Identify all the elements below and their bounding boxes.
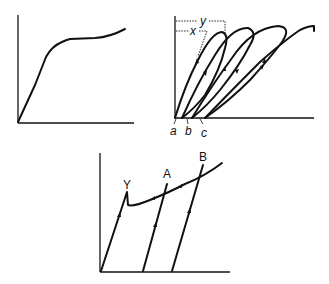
figure-canvas: y x a b c Y A B (0, 0, 329, 284)
diagram-monotonic (18, 15, 134, 123)
label-y: y (199, 14, 207, 28)
tick-c (200, 119, 203, 124)
stress-strain-curve (18, 29, 125, 122)
label-x: x (189, 24, 197, 38)
diagram-hysteresis: y x a b c (170, 14, 314, 140)
unloading-line-b (172, 165, 203, 271)
label-b: b (185, 124, 192, 138)
diagram-yield-point: Y A B (100, 150, 230, 272)
label-A: A (163, 167, 171, 181)
label-c: c (201, 126, 207, 140)
label-Y: Y (123, 178, 131, 192)
label-B: B (199, 150, 207, 164)
label-a: a (170, 124, 177, 138)
